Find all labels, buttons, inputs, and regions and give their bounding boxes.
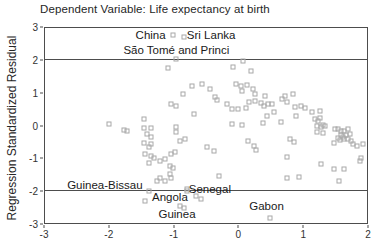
x-axis: -3-2-1012	[44, 224, 368, 243]
y-tick-mark	[40, 59, 43, 60]
data-point	[169, 175, 174, 180]
data-point	[173, 103, 178, 108]
y-tick-label: 2	[32, 54, 38, 65]
x-tick-label: -2	[104, 229, 113, 240]
country-label: Gabon	[249, 200, 284, 212]
data-point	[261, 120, 266, 125]
data-point	[170, 33, 175, 38]
data-point	[285, 176, 290, 181]
data-point	[290, 91, 295, 96]
data-point	[252, 91, 257, 96]
data-point	[285, 99, 290, 104]
x-tick-label: -3	[40, 229, 49, 240]
data-point	[141, 125, 146, 130]
reference-line	[45, 59, 367, 60]
data-point	[214, 97, 219, 102]
plot-area: ChinaSri LankaSão Tomé and PrinciGuinea-…	[44, 27, 368, 224]
data-point	[317, 108, 322, 113]
data-point	[183, 136, 188, 141]
data-point	[268, 216, 273, 221]
x-tick-mark	[368, 225, 369, 228]
data-point	[341, 166, 346, 171]
data-point	[271, 109, 276, 114]
data-point	[357, 158, 362, 163]
data-point	[331, 140, 336, 145]
country-label: China	[136, 29, 166, 41]
y-tick-label: 1	[32, 87, 38, 98]
data-point	[249, 68, 254, 73]
data-point	[166, 66, 171, 71]
data-point	[331, 166, 336, 171]
data-point	[321, 130, 326, 135]
x-tick-label: -1	[169, 229, 178, 240]
data-point	[192, 111, 197, 116]
data-point	[243, 105, 248, 110]
data-point	[285, 154, 290, 159]
data-point	[319, 161, 324, 166]
data-point	[361, 141, 366, 146]
data-point	[141, 116, 146, 121]
data-point	[182, 35, 187, 40]
data-point	[151, 155, 156, 160]
chart-title: Dependent Variable: Life expectancy at b…	[40, 3, 270, 15]
country-label: São Tomé and Princi	[123, 44, 229, 56]
y-tick-label: -2	[29, 186, 38, 197]
data-point	[336, 179, 341, 184]
data-point	[236, 106, 241, 111]
scatterplot-figure: Dependent Variable: Life expectancy at b…	[0, 0, 373, 243]
data-point	[247, 99, 252, 104]
x-tick-mark	[108, 225, 109, 228]
y-tick-label: 3	[32, 22, 38, 33]
data-point	[303, 105, 308, 110]
data-point	[317, 115, 322, 120]
data-point	[291, 140, 296, 145]
data-point	[240, 88, 245, 93]
y-tick-mark	[40, 92, 43, 93]
data-point	[146, 144, 151, 149]
y-tick-mark	[40, 158, 43, 159]
x-tick-mark	[44, 225, 45, 228]
data-point	[180, 91, 185, 96]
data-point	[190, 83, 195, 88]
x-tick-label: 2	[365, 229, 371, 240]
data-point	[198, 196, 203, 201]
data-point	[125, 129, 130, 134]
y-tick-label: -1	[29, 153, 38, 164]
y-tick-mark	[40, 27, 43, 28]
data-point	[244, 82, 249, 87]
data-point	[253, 147, 258, 152]
data-point	[162, 156, 167, 161]
data-point	[205, 144, 210, 149]
data-point	[170, 166, 175, 171]
data-point	[293, 113, 298, 118]
data-point	[211, 148, 216, 153]
data-point	[252, 99, 257, 104]
data-point	[146, 160, 151, 165]
data-point	[245, 138, 250, 143]
country-label: Guinea	[158, 208, 195, 220]
data-point	[279, 119, 284, 124]
data-point	[173, 149, 178, 154]
country-label: Guinea-Bissau	[67, 179, 142, 191]
data-point	[240, 122, 245, 127]
data-point	[207, 86, 212, 91]
y-tick-mark	[40, 224, 43, 225]
x-tick-label: 0	[236, 229, 242, 240]
data-point	[323, 123, 328, 128]
data-point	[216, 173, 221, 178]
data-point	[231, 64, 236, 69]
data-point	[107, 121, 112, 126]
y-axis: 3210-1-2-3	[0, 27, 44, 224]
data-point	[241, 59, 246, 64]
y-tick-mark	[40, 191, 43, 192]
x-tick-label: 1	[300, 229, 306, 240]
data-point	[230, 121, 235, 126]
data-point	[297, 174, 302, 179]
x-tick-mark	[238, 225, 239, 228]
y-tick-label: 0	[32, 120, 38, 131]
data-point	[283, 94, 288, 99]
x-tick-mark	[303, 225, 304, 228]
data-point	[354, 143, 359, 148]
x-tick-mark	[173, 225, 174, 228]
country-label: Angola	[152, 191, 188, 203]
